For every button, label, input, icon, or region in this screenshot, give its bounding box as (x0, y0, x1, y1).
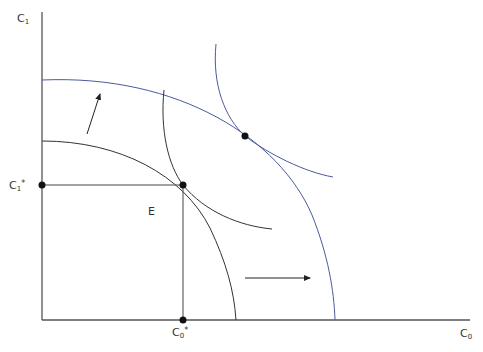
x-axis-label: C0 (460, 328, 472, 341)
c1-star-sup: * (21, 179, 25, 188)
c0-star-label: C0* (172, 327, 188, 340)
point-e-label: E (148, 206, 155, 217)
inner-ppc-curve (42, 141, 236, 320)
c1-star-label: C1* (9, 180, 25, 193)
lower-indifference-curve (163, 90, 272, 229)
point-e-dot (180, 182, 187, 189)
x-axis-label-base: C (460, 327, 468, 340)
outer-ppc-curve (42, 80, 335, 320)
y-axis-label-sub: 1 (25, 18, 29, 26)
y-axis-label: C1 (17, 13, 29, 26)
arrow-up-icon (87, 94, 100, 134)
point-c0-star-dot (180, 317, 187, 324)
c0-star-sup: * (184, 326, 188, 335)
c1-star-base: C (9, 179, 17, 192)
y-axis-label-base: C (17, 12, 25, 25)
point-c1-star-dot (39, 182, 46, 189)
c0-star-base: C (172, 326, 180, 339)
point-new-optimum-dot (242, 133, 249, 140)
x-axis-label-sub: 0 (468, 333, 472, 341)
diagram-canvas (0, 0, 483, 352)
axes (42, 12, 470, 320)
upper-indifference-curve (215, 44, 333, 177)
